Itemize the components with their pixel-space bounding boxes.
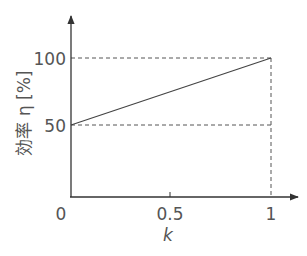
y-tick-50: 50	[44, 116, 66, 136]
x-axis-label: k	[163, 225, 174, 245]
origin-label: 0	[56, 204, 67, 224]
x-tick-0.5-label: 0.5	[156, 204, 183, 224]
y-axis-label: 効率 η [%]	[14, 71, 34, 156]
y-tick-100: 100	[34, 49, 66, 69]
chart-canvas: 100 50 0 0.5 1 k 効率 η [%]	[0, 0, 307, 256]
x-tick-1-label: 1	[266, 204, 277, 224]
efficiency-line	[71, 58, 271, 125]
